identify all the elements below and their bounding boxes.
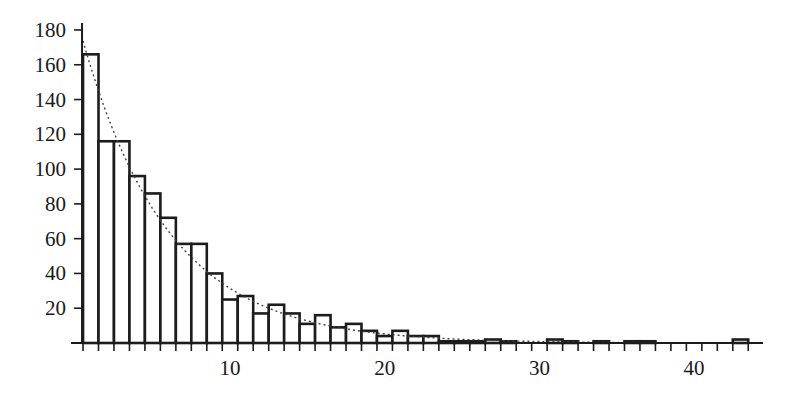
x-tick-label: 10 [220, 356, 241, 380]
x-tick-label: 20 [374, 356, 395, 380]
histogram-bar [207, 273, 222, 343]
histogram-bar [392, 331, 407, 343]
y-tick-label: 20 [45, 296, 66, 320]
y-axis-tick-labels: 20406080100120140160180 [35, 18, 67, 320]
y-tick-label: 80 [45, 192, 66, 216]
histogram-bar [253, 313, 268, 343]
histogram-bar [160, 218, 175, 343]
histogram-bar [238, 296, 253, 343]
y-tick-label: 180 [35, 18, 67, 42]
histogram-bar [129, 176, 144, 343]
histogram-bar [300, 324, 315, 343]
histogram-bar [377, 336, 392, 343]
histogram-chart: 10203040 20406080100120140160180 [0, 0, 787, 404]
y-axis-ticks [74, 30, 82, 308]
x-tick-label: 30 [529, 356, 550, 380]
histogram-bars [83, 54, 748, 343]
histogram-bar [176, 244, 191, 343]
histogram-bar [315, 315, 330, 343]
histogram-bar [423, 336, 438, 343]
y-tick-label: 140 [35, 88, 67, 112]
histogram-bar [331, 327, 346, 343]
y-tick-label: 60 [45, 227, 66, 251]
histogram-bar [83, 54, 98, 343]
y-tick-label: 160 [35, 53, 67, 77]
histogram-bar [222, 300, 237, 343]
y-tick-label: 100 [35, 157, 67, 181]
x-tick-label: 40 [684, 356, 705, 380]
histogram-bar [99, 141, 114, 343]
y-tick-label: 120 [35, 122, 67, 146]
x-axis-tick-labels: 10203040 [220, 356, 705, 380]
y-tick-label: 40 [45, 261, 66, 285]
histogram-bar [114, 141, 129, 343]
histogram-bar [284, 313, 299, 343]
histogram-bar [191, 244, 206, 343]
histogram-bar [408, 336, 423, 343]
histogram-bar [346, 324, 361, 343]
